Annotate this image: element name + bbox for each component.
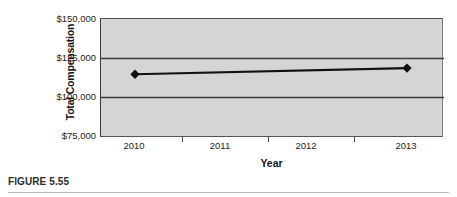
- y-tick-label-100000: $100,000: [26, 91, 96, 102]
- y-tick-label-75000: $75,000: [26, 130, 96, 141]
- data-point-2010: [130, 70, 139, 79]
- plot-area: [100, 18, 443, 137]
- data-point-2013: [402, 63, 411, 72]
- x-axis-title: Year: [100, 157, 443, 169]
- x-tick-label-2010: 2010: [104, 140, 164, 151]
- figure-container: Total Compensation $150,000 $125,000 $10…: [0, 0, 457, 197]
- x-tick-mark-3: [354, 137, 355, 142]
- x-tick-label-2011: 2011: [190, 140, 250, 151]
- x-tick-mark-1: [182, 137, 183, 142]
- series-line-total-compensation: [135, 68, 407, 74]
- figure-caption: FIGURE 5.55: [8, 176, 69, 187]
- chart-canvas: [101, 19, 444, 138]
- y-axis-ticks: $150,000 $125,000 $100,000 $75,000: [22, 0, 96, 160]
- x-tick-label-2013: 2013: [376, 140, 436, 151]
- x-tick-label-2012: 2012: [276, 140, 336, 151]
- x-tick-mark-2: [268, 137, 269, 142]
- y-tick-label-125000: $125,000: [26, 52, 96, 63]
- caption-divider: [8, 192, 449, 193]
- y-tick-label-150000: $150,000: [26, 13, 96, 24]
